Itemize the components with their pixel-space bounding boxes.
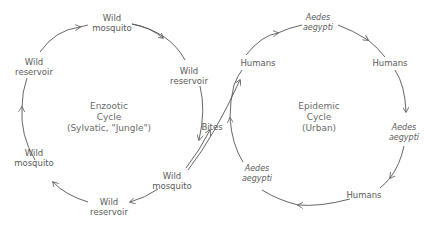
node-humans-right: Humans <box>372 58 407 68</box>
enzootic-cycle-title: Enzootic Cycle (Sylvatic, "Jungle") <box>67 101 151 134</box>
node-wild-reservoir-right: Wild reservoir <box>170 66 208 86</box>
node-wild-reservoir-left: Wild reservoir <box>15 57 53 77</box>
arc-r-4 <box>390 146 404 178</box>
node-wild-mosquito-top: Wild mosquito <box>92 13 132 33</box>
arc-l-2 <box>132 24 185 60</box>
node-wild-mosquito-left: Wild mosquito <box>14 148 54 168</box>
arc-r-3 <box>395 70 406 112</box>
epidemic-cycle-title: Epidemic Cycle (Urban) <box>298 101 339 134</box>
bites-label: Bites <box>201 122 222 132</box>
node-wild-mosquito-bottom-right: Wild mosquito <box>152 171 192 191</box>
arc-r-6 <box>230 118 243 162</box>
arc-r-1 <box>246 33 278 55</box>
arc-r-5 <box>298 199 350 205</box>
node-aedes-aegypti-top: Aedes aegypti <box>303 13 333 33</box>
node-humans-left: Humans <box>240 58 275 68</box>
node-aedes-aegypti-right: Aedes aegypti <box>389 123 419 143</box>
arc-r-2 <box>338 25 368 40</box>
node-aedes-aegypti-bottom-left: Aedes aegypti <box>242 164 272 184</box>
node-humans-bottom: Humans <box>346 190 381 200</box>
arc-l-5 <box>53 182 88 202</box>
arc-l-1 <box>40 27 80 52</box>
bite-arrow-1 <box>186 130 210 168</box>
node-wild-reservoir-bottom: Wild reservoir <box>90 197 128 217</box>
